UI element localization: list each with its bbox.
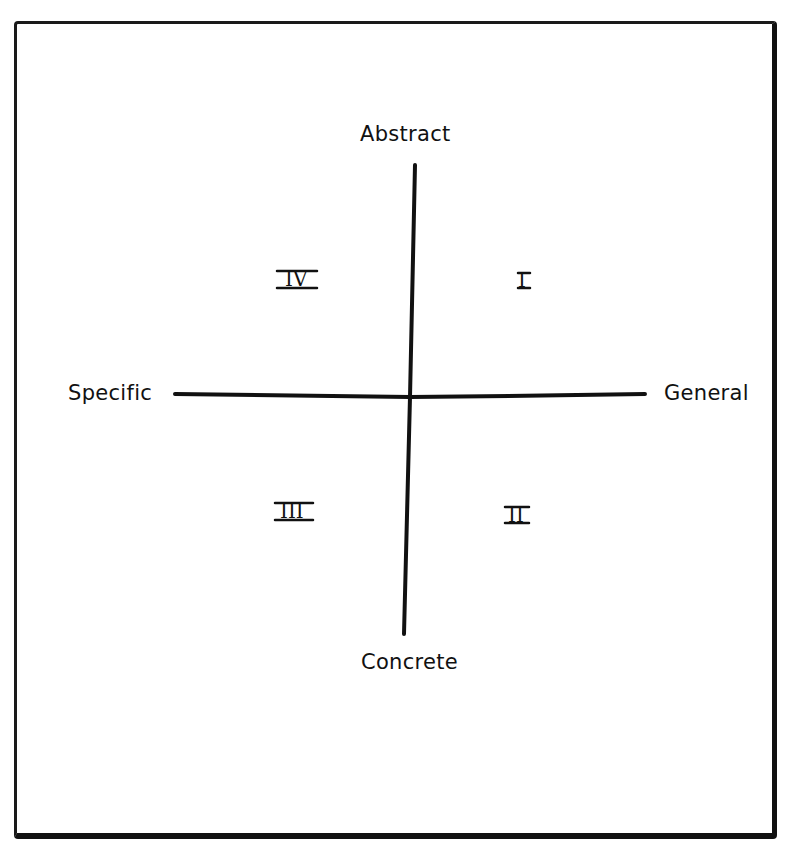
- quadrant-i-label: I: [518, 268, 526, 292]
- quadrant-iii-label: III: [280, 499, 304, 523]
- vertical-axis: [404, 165, 415, 634]
- quadrant-iv-label: IV: [285, 267, 307, 291]
- axis-label-top: Abstract: [360, 122, 451, 146]
- axis-label-bottom: Concrete: [361, 650, 458, 674]
- quadrant-ii-label: II: [508, 503, 524, 527]
- axis-label-left: Specific: [68, 381, 152, 405]
- axis-label-right: General: [664, 381, 749, 405]
